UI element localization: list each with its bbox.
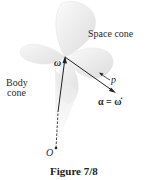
alpha-label: α = ω̇: [98, 97, 122, 107]
figure-caption: Figure 7/8: [50, 166, 98, 177]
omega-label: ω: [54, 58, 61, 68]
p-label: p: [111, 75, 116, 85]
space-cone-label: Space cone: [88, 29, 133, 39]
body-cone-label-line2: cone: [7, 88, 26, 98]
origin-point: [55, 147, 58, 150]
origin-label: O: [46, 148, 53, 158]
